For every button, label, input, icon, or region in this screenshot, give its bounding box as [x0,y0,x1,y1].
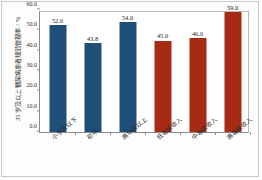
y-axis-tick-mark [37,70,40,71]
bar: 59.0 [224,12,241,132]
y-axis-title: 35 岁及以上糖尿病患者规范管理率 / % [11,0,25,139]
bar-value-label: 43.8 [87,36,98,42]
bar: 45.0 [154,41,171,133]
bar-value-label: 46.0 [192,31,203,37]
bar-value-label: 59.0 [227,5,238,11]
y-axis-tick-label: 60.0 [27,1,38,7]
y-axis-tick-mark [37,110,40,111]
y-axis-tick-label: 30.0 [27,62,38,68]
x-axis-tick-mark [110,132,111,135]
y-axis-tick-mark [37,49,40,50]
plot-area: 0.010.020.030.040.050.060.052.643.854.04… [39,11,249,133]
y-axis-title-text: 35 岁及以上糖尿病患者规范管理率 / % [15,17,21,121]
x-axis-tick-mark [180,132,181,135]
bar: 54.0 [119,22,136,132]
y-axis-tick-label: 50.0 [27,21,38,27]
x-axis-tick-mark [75,132,76,135]
y-axis-tick-mark [37,131,40,132]
y-axis-tick-label: 40.0 [27,42,38,48]
x-axis-tick-mark [250,132,251,135]
bar-chart-figure: 35 岁及以上糖尿病患者规范管理率 / % 0.010.020.030.040.… [0,0,262,180]
bar-value-label: 54.0 [122,15,133,21]
y-axis-tick-label: 0.0 [30,123,38,129]
y-axis-tick-mark [37,90,40,91]
bar: 46.0 [189,38,206,132]
y-axis-tick-label: 10.0 [27,103,38,109]
bar-value-label: 45.0 [157,33,168,39]
y-axis-tick-mark [37,9,40,10]
y-axis-tick-label: 20.0 [27,82,38,88]
x-axis-tick-mark [215,132,216,135]
y-axis-tick-mark [37,29,40,30]
x-axis-tick-mark [145,132,146,135]
bar: 52.6 [49,25,66,132]
bar: 43.8 [84,43,101,132]
bar-value-label: 52.6 [52,18,63,24]
